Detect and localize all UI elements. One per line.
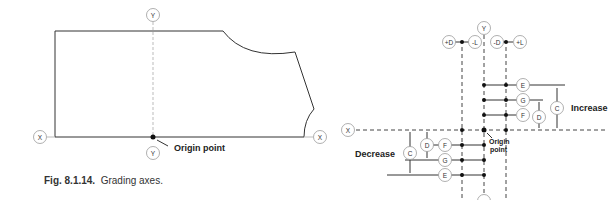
plus-d-label: +D — [445, 39, 454, 46]
decrease-label: Decrease — [355, 149, 395, 159]
origin-pointer — [157, 140, 168, 146]
caption-text: Grading axes. — [101, 175, 163, 186]
caption-number: Fig. 8.1.14. — [44, 175, 95, 186]
plus-l-label: +L — [516, 39, 524, 46]
lower-point-g: G — [442, 157, 447, 164]
left-figure: Y Y X X Origin point — [34, 9, 327, 160]
origin-label-line2: point — [490, 146, 508, 154]
minus-d-label: -D — [494, 39, 501, 46]
figure-caption: Fig. 8.1.14. Grading axes. — [44, 175, 163, 186]
minus-l-label: -L — [472, 39, 478, 46]
x-label-right: X — [346, 127, 351, 134]
increase-label: Increase — [571, 103, 608, 113]
lower-dim-c: C — [408, 150, 413, 157]
lower-point-f: F — [443, 142, 447, 149]
upper-point-f: F — [521, 112, 525, 119]
upper-point-g: G — [520, 97, 525, 104]
origin-dot — [151, 135, 156, 140]
y-marker-bottom-right — [478, 195, 491, 201]
y-top-label: Y — [151, 12, 156, 19]
pattern-outline — [55, 31, 314, 137]
upper-dim-d: D — [537, 114, 542, 121]
y-bottom-label: Y — [151, 150, 156, 157]
x-left-label: X — [38, 134, 43, 141]
grading-axes-diagram: Y Y X X Origin point +D -L Y -D +L — [0, 0, 608, 200]
y-label-right: Y — [482, 25, 487, 32]
lower-point-e: E — [443, 172, 448, 179]
origin-label-line1: Origin — [489, 138, 510, 146]
right-figure: +D -L Y -D +L X E G F D C Increase — [342, 22, 608, 201]
x-right-label: X — [318, 134, 323, 141]
origin-point-label: Origin point — [174, 143, 225, 153]
upper-dim-c: C — [555, 105, 560, 112]
lower-dim-d: D — [425, 142, 430, 149]
upper-point-e: E — [521, 82, 526, 89]
